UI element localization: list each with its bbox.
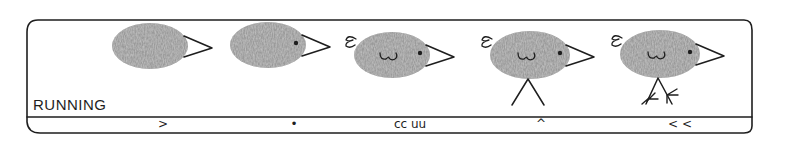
beak-icon <box>696 44 724 65</box>
thumbprint-body <box>354 32 430 78</box>
panel-label: RUNNING <box>33 96 107 113</box>
bird-step-2 <box>230 22 330 68</box>
legs-icon <box>512 79 544 105</box>
beak-icon <box>184 36 212 57</box>
bird-step-5 <box>612 30 724 104</box>
thumbprint-body <box>490 31 570 79</box>
legs-icon <box>646 78 672 104</box>
thumbprint-body <box>230 22 306 68</box>
step-mark-3: cc uu <box>394 116 426 132</box>
eye-icon <box>294 41 298 45</box>
bird-step-1 <box>112 23 212 69</box>
beak-icon <box>302 35 330 56</box>
tail-curl-icon <box>612 36 622 47</box>
step-mark-2: • <box>290 116 297 132</box>
bird-step-4 <box>482 31 594 105</box>
thumbprint-body <box>112 23 188 69</box>
eye-icon <box>688 50 692 54</box>
step-mark-5: < < <box>668 116 692 132</box>
thumbprint-body <box>620 30 700 78</box>
step-mark-4: ^ <box>536 116 546 132</box>
bird-step-3 <box>346 32 454 78</box>
tail-curl-icon <box>346 37 356 48</box>
beak-icon <box>426 45 454 66</box>
eye-icon <box>418 51 422 55</box>
step-mark-1: > <box>158 116 168 132</box>
bird-sequence <box>112 22 724 105</box>
beak-icon <box>566 45 594 66</box>
tail-curl-icon <box>482 37 492 48</box>
front-foot-icon <box>667 89 678 103</box>
eye-icon <box>558 51 562 55</box>
